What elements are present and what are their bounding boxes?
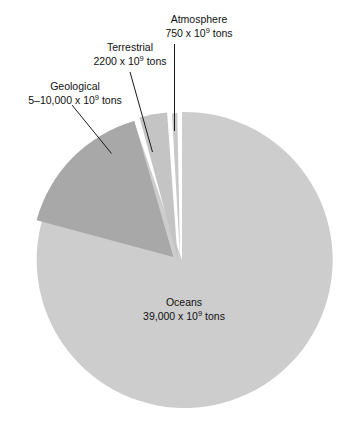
slice-label-oceans-value: 39,000 x 109 tons (122, 310, 246, 324)
slice-label-oceans: Oceans 39,000 x 109 tons (122, 296, 246, 323)
slice-label-oceans-value-suffix: tons (202, 310, 225, 322)
slice-label-oceans-value-prefix: 39,000 x 10 (143, 310, 198, 322)
callout-terrestrial-value: 2200 x 109 tons (74, 55, 186, 69)
slice-label-oceans-title: Oceans (122, 296, 246, 310)
callout-geological-value: 5–10,000 x 109 tons (14, 94, 136, 108)
callout-atmosphere-value-prefix: 750 x 10 (165, 27, 205, 39)
callout-geological-value-suffix: tons (99, 94, 122, 106)
callout-geological: Geological 5–10,000 x 109 tons (14, 80, 136, 107)
callout-terrestrial-value-prefix: 2200 x 10 (93, 55, 139, 67)
callout-atmosphere-title: Atmosphere (147, 13, 251, 27)
callout-terrestrial-value-suffix: tons (144, 55, 167, 67)
callout-geological-title: Geological (14, 80, 136, 94)
callout-atmosphere-value: 750 x 109 tons (147, 27, 251, 41)
callout-atmosphere: Atmosphere 750 x 109 tons (147, 13, 251, 40)
callout-terrestrial: Terrestrial 2200 x 109 tons (74, 41, 186, 68)
callout-atmosphere-value-suffix: tons (210, 27, 233, 39)
callout-geological-value-prefix: 5–10,000 x 10 (28, 94, 95, 106)
callout-terrestrial-title: Terrestrial (74, 41, 186, 55)
pie-chart-figure: Geological 5–10,000 x 109 tons Terrestri… (0, 0, 353, 427)
